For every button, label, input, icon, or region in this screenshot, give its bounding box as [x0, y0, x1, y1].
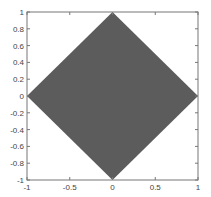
y-tick-label: -0.8: [10, 159, 24, 168]
y-tick-label: -0.2: [10, 109, 24, 118]
x-tick-label: 0.5: [150, 183, 162, 192]
y-tick-label: 0: [20, 92, 25, 101]
x-tick-label: 0: [110, 183, 115, 192]
y-tick-label: 0.4: [13, 58, 25, 67]
x-tick-label: 1: [196, 183, 201, 192]
x-tick-label: -0.5: [63, 183, 77, 192]
y-tick-label: -1: [17, 176, 25, 185]
y-tick-label: 0.8: [13, 25, 25, 34]
chart-plot: -1-0.500.51 10.80.60.40.20-0.2-0.4-0.6-0…: [0, 0, 211, 197]
y-tick-label: -0.6: [10, 142, 24, 151]
diamond-shape: [27, 12, 198, 180]
y-tick-label: 1: [20, 8, 25, 17]
y-tick-label: -0.4: [10, 126, 24, 135]
y-tick-label: 0.2: [13, 75, 25, 84]
y-tick-label: 0.6: [13, 42, 25, 51]
x-tick-label: -1: [23, 183, 31, 192]
